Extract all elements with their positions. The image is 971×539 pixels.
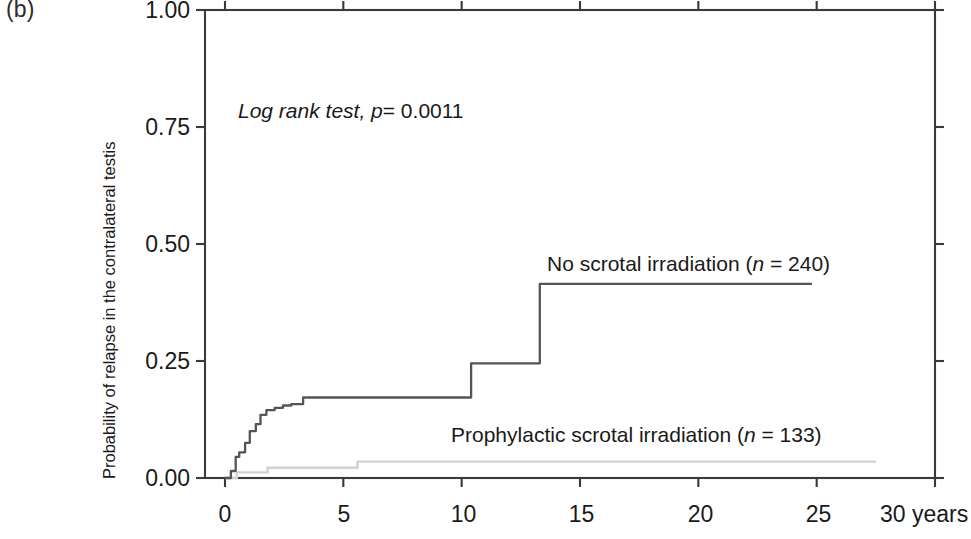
x-tick-label-15: 15 [560,503,603,526]
curve-prophylactic-scrotal-irradiation [225,462,876,478]
series-label-no-scrotal-irradiation: No scrotal irradiation (n = 240) [547,252,830,276]
series-label-no-scrotal-text: No scrotal irradiation ( [547,252,752,275]
x-tick-label-0: 0 [211,503,239,526]
series-label-no-scrotal-tail: = 240) [764,252,830,275]
series-label-prophylactic-text: Prophylactic scrotal irradiation ( [451,423,744,446]
y-tick-label-0.50: 0.50 [106,233,190,256]
x-tick-label-10: 10 [442,503,485,526]
series-label-no-scrotal-n: n [752,252,764,275]
tick-marks [196,1,944,487]
x-tick-label-25: 25 [797,503,840,526]
series-label-prophylactic-irradiation: Prophylactic scrotal irradiation (n = 13… [451,423,822,447]
y-tick-label-0.75: 0.75 [106,116,190,139]
axis-frame [205,10,935,478]
curve-no-scrotal-irradiation [225,284,812,478]
logrank-annotation-value: = 0.0011 [383,99,464,122]
logrank-annotation: Log rank test, p= 0.0011 [238,99,464,123]
x-tick-label-30-years: 30 years [880,503,971,526]
series-label-prophylactic-n: n [744,423,756,446]
logrank-annotation-italic: Log rank test, p [238,99,383,122]
x-tick-label-5: 5 [330,503,358,526]
y-tick-label-1.00: 1.00 [106,0,190,22]
x-tick-label-20: 20 [679,503,722,526]
series-label-prophylactic-tail: = 133) [756,423,822,446]
y-tick-label-0.25: 0.25 [106,350,190,373]
kaplan-meier-chart: Probability of relapse in the contralate… [0,0,971,539]
y-tick-label-0.00: 0.00 [106,467,190,490]
